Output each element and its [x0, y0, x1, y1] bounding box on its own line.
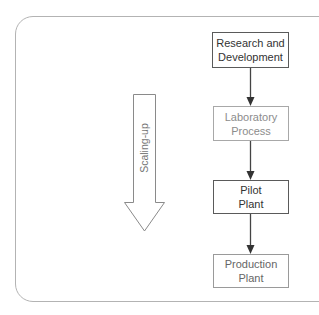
step-label: Production Plant: [225, 257, 278, 285]
step-label: Research and Development: [216, 36, 285, 64]
step-production-plant: Production Plant: [213, 254, 289, 288]
step-label: Pilot Plant: [238, 183, 263, 211]
step-pilot-plant: Pilot Plant: [213, 180, 289, 214]
step-label: Laboratory Process: [225, 110, 278, 138]
scaling-up-label: Scaling-up: [138, 123, 150, 173]
step-laboratory-process: Laboratory Process: [213, 106, 289, 141]
step-research-and-development: Research and Development: [212, 32, 289, 68]
connector-arrow-icon: [247, 68, 255, 106]
connector-arrow-icon: [247, 214, 255, 254]
connector-arrow-icon: [247, 141, 255, 180]
